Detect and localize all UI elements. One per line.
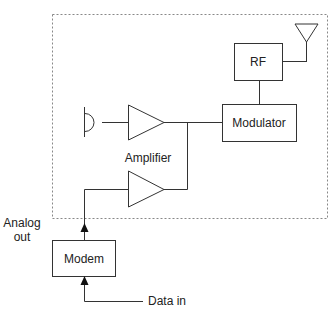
data-in-label: Data in <box>148 294 186 308</box>
rf-label: RF <box>250 55 266 69</box>
analog-out-wire <box>85 190 129 241</box>
amplifier-bottom-triangle <box>129 171 165 207</box>
data-in-wire <box>85 277 144 302</box>
antenna-icon <box>295 24 318 62</box>
microphone-icon <box>85 107 95 137</box>
modem-label: Modem <box>64 252 104 266</box>
data-in-arrow-icon <box>81 276 89 285</box>
analog-out-label-line2: out <box>14 230 31 244</box>
block-diagram: RF Modulator Amplifier Modem Analog out … <box>0 0 336 316</box>
analog-out-arrow-icon <box>81 223 89 232</box>
amplifier-label: Amplifier <box>125 151 172 165</box>
analog-out-label-line1: Analog <box>3 216 40 230</box>
amplifier-top-triangle <box>129 105 165 140</box>
modulator-label: Modulator <box>232 116 285 130</box>
